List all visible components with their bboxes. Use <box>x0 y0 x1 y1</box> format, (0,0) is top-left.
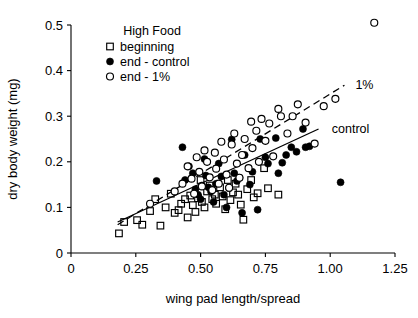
x-tick-label: 0.25 <box>123 261 148 276</box>
data-point <box>249 145 256 152</box>
data-point <box>284 130 291 137</box>
data-point <box>211 149 218 156</box>
data-point <box>239 151 246 158</box>
data-point <box>275 191 282 198</box>
y-tick-label: 0.4 <box>45 63 63 78</box>
data-point <box>157 222 164 229</box>
data-point <box>264 160 271 167</box>
data-point <box>188 175 195 182</box>
data-point <box>231 130 238 137</box>
data-point <box>275 105 282 112</box>
data-point <box>289 113 296 120</box>
data-point <box>237 201 244 208</box>
data-point <box>223 171 230 178</box>
legend-label: end - 1% <box>120 70 170 84</box>
legend-label: beginning <box>120 40 174 54</box>
data-point <box>302 119 309 126</box>
data-point <box>236 174 243 181</box>
legend-marker-beginning <box>107 43 114 50</box>
data-point <box>241 136 248 143</box>
data-point <box>227 197 234 204</box>
data-point <box>220 191 227 198</box>
data-point <box>191 190 198 197</box>
data-point <box>279 159 286 166</box>
data-point <box>209 187 216 194</box>
x-tick-label: 1.00 <box>318 261 343 276</box>
data-point <box>198 183 205 190</box>
data-point <box>153 177 160 184</box>
legend-title: High Food <box>123 24 181 38</box>
data-point <box>275 170 282 177</box>
data-point <box>215 180 222 187</box>
data-point <box>162 204 169 211</box>
data-point <box>147 200 154 207</box>
data-point <box>262 137 269 144</box>
data-point <box>196 168 203 175</box>
scatter-plot-figure: 00.250.500.751.001.2500.10.20.30.40.5win… <box>0 0 418 318</box>
data-point <box>283 151 290 158</box>
y-tick-label: 0 <box>56 246 63 261</box>
data-point <box>332 95 339 102</box>
x-tick-label: 0.75 <box>253 261 278 276</box>
data-point <box>233 160 240 167</box>
data-point <box>192 209 199 216</box>
data-point <box>293 148 300 155</box>
data-point <box>270 153 277 160</box>
data-point <box>226 184 233 191</box>
data-point <box>197 196 204 203</box>
data-point <box>253 127 260 134</box>
data-point <box>239 209 246 216</box>
data-point <box>178 200 185 207</box>
data-point <box>218 138 225 145</box>
data-point <box>246 181 253 188</box>
data-point <box>277 113 284 120</box>
legend-marker-end-1pct <box>107 73 114 80</box>
data-point <box>184 163 191 170</box>
legend-label: end - control <box>120 55 189 69</box>
data-point <box>206 174 213 181</box>
data-point <box>266 120 273 127</box>
data-point <box>265 185 272 192</box>
data-point <box>213 165 220 172</box>
data-point <box>337 179 344 186</box>
data-point <box>371 19 378 26</box>
legend-marker-end-control <box>107 58 114 65</box>
data-point <box>294 101 301 108</box>
data-point <box>255 158 262 165</box>
data-point <box>190 202 197 209</box>
data-point <box>311 140 318 147</box>
data-point <box>228 141 235 148</box>
data-point <box>248 118 255 125</box>
chart-canvas: 00.250.500.751.001.2500.10.20.30.40.5win… <box>0 0 418 318</box>
x-tick-label: 0.50 <box>188 261 213 276</box>
x-tick-label: 0 <box>67 261 74 276</box>
y-tick-label: 0.1 <box>45 200 63 215</box>
data-point <box>240 216 247 223</box>
data-point <box>210 198 217 205</box>
data-point <box>220 156 227 163</box>
data-point <box>258 115 265 122</box>
data-point <box>116 230 123 237</box>
trend-label-1pct: 1% <box>355 78 373 92</box>
data-point <box>223 204 230 211</box>
data-point <box>262 154 269 161</box>
y-tick-label: 0.3 <box>45 109 63 124</box>
data-point <box>245 165 252 172</box>
data-point <box>254 206 261 213</box>
y-tick-label: 0.2 <box>45 154 63 169</box>
data-point <box>184 214 191 221</box>
data-point <box>171 188 178 195</box>
data-point <box>254 190 261 197</box>
x-tick-label: 1.25 <box>382 261 407 276</box>
data-point <box>204 158 211 165</box>
data-point <box>272 135 279 142</box>
data-point <box>250 194 257 201</box>
y-tick-label: 0.5 <box>45 18 63 33</box>
data-point <box>179 144 186 151</box>
x-axis-title: wing pad length/spread <box>165 291 300 306</box>
y-axis-title: dry body weight (mg) <box>5 78 20 199</box>
data-point <box>193 154 200 161</box>
data-point <box>201 147 208 154</box>
trend-label-control: control <box>332 122 370 136</box>
data-point <box>320 103 327 110</box>
